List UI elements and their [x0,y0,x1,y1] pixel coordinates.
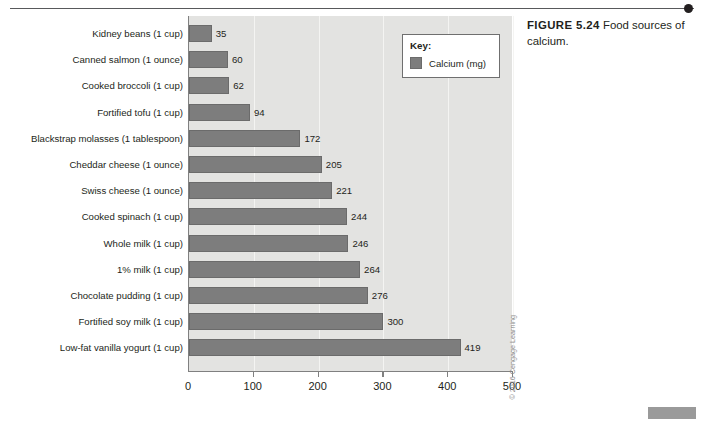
bar-value-label: 94 [254,108,265,118]
top-divider-bullet-icon [684,4,693,13]
bar [189,235,348,252]
category-label: Kidney beans (1 cup) [0,29,183,39]
x-axis-tick [318,371,319,377]
category-label: Swiss cheese (1 ounce) [0,186,183,196]
category-label: Canned salmon (1 ounce) [0,55,183,65]
bar [189,104,250,121]
category-label: Whole milk (1 cup) [0,239,183,249]
figure-number: FIGURE 5.24 [527,19,600,31]
page-corner-tab [648,407,696,419]
legend-entry-label: Calcium (mg) [429,58,486,69]
bar [189,77,229,94]
x-axis-tick-label: 400 [438,380,456,393]
gridline [383,16,384,371]
bar-value-label: 244 [351,212,367,222]
copyright-notice: © 2016 Cengage Learning [509,315,517,399]
category-label: Low-fat vanilla yogurt (1 cup) [0,343,183,353]
bar [189,182,332,199]
category-label: Chocolate pudding (1 cup) [0,291,183,301]
category-label: Blackstrap molasses (1 tablespoon) [0,134,183,144]
bar [189,156,322,173]
bar [189,208,347,225]
x-axis-line [188,371,512,372]
legend-entry: Calcium (mg) [410,57,492,69]
bar [189,287,368,304]
calcium-bar-chart: Kidney beans (1 cup)Canned salmon (1 oun… [0,16,520,408]
category-label: Cooked broccoli (1 cup) [0,81,183,91]
bar [189,261,360,278]
x-axis-tick-label: 200 [308,380,326,393]
bar [189,130,300,147]
bar-value-label: 172 [304,134,320,144]
x-axis-tick [253,371,254,377]
bar-value-label: 60 [232,55,243,65]
x-axis-tick [447,371,448,377]
bar-value-label: 419 [465,343,481,353]
bar-value-label: 205 [326,160,342,170]
bar [189,313,383,330]
figure-caption: FIGURE 5.24 Food sources of calcium. [527,17,699,49]
bar-value-label: 276 [372,291,388,301]
bar-value-label: 300 [387,317,403,327]
legend-title: Key: [410,40,492,52]
top-divider-rule [10,8,694,9]
bar-value-label: 264 [364,265,380,275]
bar-value-label: 221 [336,186,352,196]
bar-value-label: 35 [216,29,227,39]
category-label: Fortified soy milk (1 cup) [0,317,183,327]
category-label: 1% milk (1 cup) [0,265,183,275]
bar [189,51,228,68]
bar [189,25,212,42]
bar-value-label: 246 [352,239,368,249]
x-axis-tick-label: 100 [244,380,262,393]
legend-swatch-icon [410,57,422,69]
chart-legend: Key: Calcium (mg) [402,34,500,78]
category-label: Cheddar cheese (1 ounce) [0,160,183,170]
category-axis-labels: Kidney beans (1 cup)Canned salmon (1 oun… [0,16,183,371]
x-axis-tick [382,371,383,377]
bar-value-label: 62 [233,81,244,91]
category-label: Cooked spinach (1 cup) [0,212,183,222]
category-label: Fortified tofu (1 cup) [0,108,183,118]
x-axis-tick-label: 0 [185,380,191,393]
x-axis-tick-label: 300 [373,380,391,393]
bar [189,339,461,356]
